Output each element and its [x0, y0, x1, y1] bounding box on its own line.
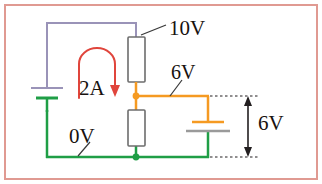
current-arrow-head: [110, 85, 120, 97]
dimension-6v-right: [210, 96, 258, 157]
resistor-upper: [128, 37, 145, 82]
leader-line-10v: [141, 25, 166, 35]
node-dot-6v: [133, 93, 140, 100]
resistor-lower-body: [128, 110, 145, 146]
battery-right: [186, 122, 230, 131]
dimension-arrowhead-bottom: [244, 147, 252, 157]
label-2a-current: 2A: [79, 78, 105, 99]
figure-canvas: 10V 6V 2A 0V 6V: [0, 0, 322, 184]
label-6v-node: 6V: [171, 62, 195, 82]
label-6v-dimension: 6V: [258, 113, 284, 134]
label-0v-ground: 0V: [69, 126, 95, 147]
circuit-schematic: [0, 0, 322, 184]
battery-left: [31, 88, 63, 112]
resistor-lower: [128, 110, 145, 146]
label-10v: 10V: [169, 18, 205, 39]
dimension-arrowhead-top: [244, 96, 252, 106]
resistor-upper-body: [128, 37, 145, 82]
node-dot-0v: [133, 154, 140, 161]
